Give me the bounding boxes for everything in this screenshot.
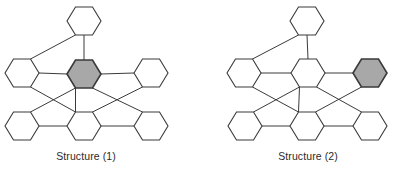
hexagon-node-bot-left: [228, 112, 262, 140]
edge-top-to-mid-left: [31, 35, 76, 59]
hexagon-node-bot-center: [290, 112, 324, 140]
structure-2-caption: Structure (2): [278, 150, 338, 162]
shaded-hexagon-node-mid-center: [67, 60, 101, 88]
hexagon-node-bot-right: [353, 112, 387, 140]
structure-2-nodes: [227, 7, 387, 140]
hexagon-node-bot-right: [134, 112, 168, 140]
structure-1-graph: [5, 7, 168, 140]
hexagon-node-mid-left: [227, 59, 261, 87]
structure-1-nodes: [5, 7, 168, 140]
hexagon-node-bot-left: [5, 112, 39, 140]
hexagon-node-mid-right: [134, 59, 168, 87]
hexagon-node-mid-center: [291, 59, 325, 87]
structure-1-caption: Structure (1): [56, 150, 116, 162]
hexagon-structures-diagram: [0, 0, 393, 170]
hexagon-node-bot-center: [67, 112, 101, 140]
hexagon-node-top: [67, 7, 101, 35]
shaded-hexagon-node-mid-right: [353, 59, 387, 87]
edge-top-to-mid-left: [253, 35, 299, 59]
edge-mid-center-to-bot-center: [299, 87, 300, 112]
structure-2-graph: [227, 7, 387, 140]
edge-top-to-mid-center: [307, 35, 308, 59]
hexagon-node-mid-left: [5, 59, 39, 87]
edge-mid-center-to-mid-right: [101, 73, 134, 74]
hexagon-node-top: [290, 7, 324, 35]
edge-mid-left-to-mid-center: [39, 73, 67, 74]
